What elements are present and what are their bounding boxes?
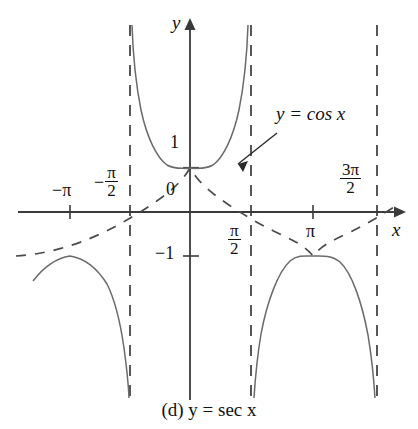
origin-label: 0 — [166, 180, 175, 198]
fraction-numerator: 3π — [340, 161, 361, 179]
fraction-denominator: 2 — [340, 179, 361, 196]
figure-caption: (d) y = sec x — [0, 400, 418, 419]
x-axis-label: x — [392, 220, 400, 239]
x-tick-label-pi: π — [306, 222, 315, 240]
fraction-denominator: 2 — [105, 182, 118, 199]
figure-sec-x: y x 0 1 −1 −π π − π 2 π 2 3π 2 y = cos x… — [0, 0, 418, 429]
x-tick-label-neg-pi: −π — [52, 181, 71, 199]
y-axis — [185, 18, 196, 400]
secant-branch-left — [33, 256, 129, 398]
y-axis-label: y — [172, 13, 180, 32]
minus-sign: − — [94, 173, 105, 191]
fraction-denominator: 2 — [228, 240, 241, 257]
fraction-numerator: π — [105, 164, 118, 182]
y-tick-label-neg1: −1 — [155, 244, 174, 262]
cos-curve-label: y = cos x — [276, 104, 345, 123]
asymptote-label-pi-over-2: π 2 — [228, 222, 241, 258]
y-tick-label-1: 1 — [170, 133, 179, 151]
asymptote-label-neg-pi-over-2: − π 2 — [94, 164, 118, 200]
plot-canvas — [0, 0, 418, 429]
secant-branch-right — [254, 256, 375, 398]
cos-annotation-arrow — [238, 133, 277, 172]
fraction-numerator: π — [228, 222, 241, 240]
asymptote-label-3pi-over-2: 3π 2 — [340, 161, 361, 197]
x-axis — [18, 207, 406, 218]
